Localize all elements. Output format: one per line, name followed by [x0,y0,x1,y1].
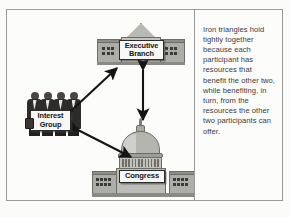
label-executive-branch: Executive Branch [119,40,164,60]
caption-panel: Iron triangles hold tightly together bec… [195,10,282,200]
label-interest-group: Interest Group [30,110,71,131]
capitol-base [92,193,195,197]
node-interest-group[interactable]: Interest Group [25,84,87,146]
node-congress[interactable]: Congress [92,118,195,198]
capitol-right-windows-icon [173,178,188,186]
briefcase-icon [25,118,34,129]
interest-group-label-line2: Group [40,120,62,129]
congress-label: Congress [125,172,159,180]
figure-frame: Executive Branch [6,9,283,201]
label-congress: Congress [119,170,165,183]
figure-caption: Iron triangles hold tightly together bec… [203,25,276,137]
white-house-left-windows-icon [102,47,114,55]
diagram-panel: Executive Branch [7,10,195,200]
white-house-right-windows-icon [165,47,177,55]
executive-branch-label-line2: Branch [129,49,154,58]
node-executive-branch[interactable]: Executive Branch [97,23,185,65]
capitol-left-windows-icon [96,178,111,186]
white-house-base [97,62,185,65]
